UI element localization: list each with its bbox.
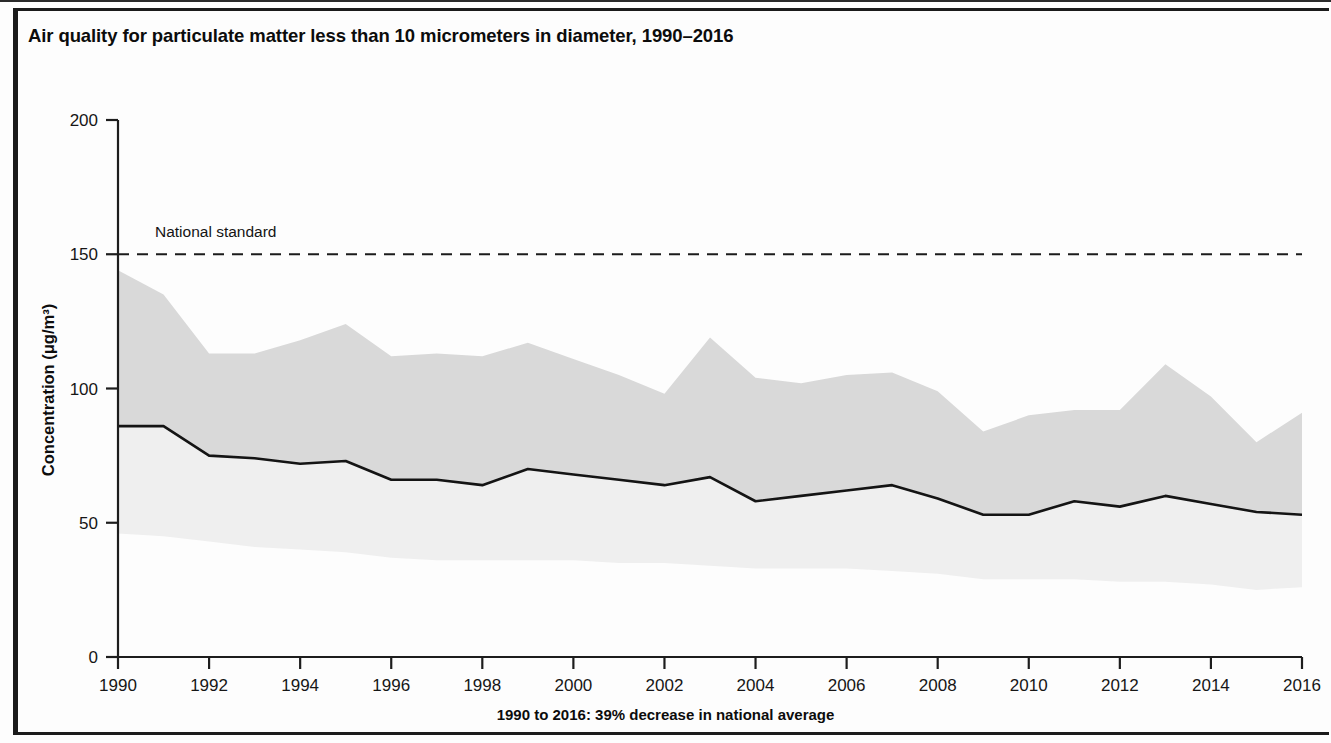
x-tick-label-2010: 2010 [1010,676,1048,695]
x-tick-label-2016: 2016 [1283,676,1321,695]
y-tick-label-0: 0 [89,648,98,667]
y-tick-label-100: 100 [70,380,98,399]
x-tick-label-1990: 1990 [99,676,137,695]
x-tick-label-1998: 1998 [463,676,501,695]
y-axis-label: Concentration (μg/m³) [39,304,57,476]
x-tick-label-2002: 2002 [646,676,684,695]
x-tick-label-1994: 1994 [281,676,319,695]
x-tick-label-2006: 2006 [828,676,866,695]
figure-bottom-rule [13,732,1329,735]
x-tick-label-1992: 1992 [190,676,228,695]
x-tick-label-2014: 2014 [1192,676,1230,695]
x-tick-label-2008: 2008 [919,676,957,695]
x-tick-label-1996: 1996 [372,676,410,695]
y-axis-label-group: Concentration (μg/m³) [39,304,57,476]
figure-container: Air quality for particulate matter less … [0,0,1331,743]
y-tick-label-200: 200 [70,111,98,130]
x-tick-label-2000: 2000 [554,676,592,695]
annotation-group: National standard [155,223,277,240]
x-tick-label-2004: 2004 [737,676,775,695]
national-standard-label: National standard [155,223,277,240]
y-tick-label-50: 50 [79,514,98,533]
y-tick-label-150: 150 [70,245,98,264]
plot-area: 050100150200 199019921994199619982000200… [0,0,1331,743]
chart-svg: 050100150200 199019921994199619982000200… [0,0,1331,743]
x-tick-label-2012: 2012 [1101,676,1139,695]
figure-footnote: 1990 to 2016: 39% decrease in national a… [0,706,1331,723]
y-tick-group: 050100150200 [70,111,118,667]
x-tick-group: 1990199219941996199820002002200420062008… [99,657,1321,695]
